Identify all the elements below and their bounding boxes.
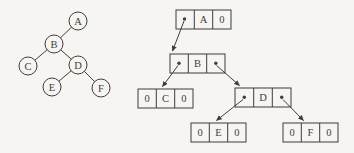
tree-node-c: C <box>19 57 37 75</box>
tree-node-d: D <box>69 56 87 74</box>
list-node-e-data: E <box>215 127 221 138</box>
arrow-a-lchild-to-b <box>173 21 185 51</box>
list-node-f-data: F <box>308 127 314 138</box>
pointer-dot <box>280 96 283 99</box>
linked-representation-diagram: A 0 B 0 C 0 D <box>138 10 338 142</box>
list-node-d-data: D <box>259 92 267 103</box>
figure-canvas: A B C D E F <box>0 0 354 153</box>
arrow-d-lchild-to-e <box>217 100 244 121</box>
pointer-dot <box>177 62 180 65</box>
list-node-a: A 0 <box>176 10 231 29</box>
binary-tree-diagram: A B C D E F <box>19 12 110 97</box>
tree-node-e-label: E <box>49 82 55 93</box>
tree-node-e: E <box>43 78 61 96</box>
tree-node-a-label: A <box>74 16 82 27</box>
pointer-dot <box>243 96 246 99</box>
tree-node-c-label: C <box>24 61 31 72</box>
list-node-e: 0 E 0 <box>191 123 246 142</box>
tree-node-f-label: F <box>98 83 104 94</box>
list-node-f: 0 F 0 <box>283 123 338 142</box>
pointer-dot <box>183 17 186 20</box>
tree-node-b-label: B <box>50 39 57 50</box>
arrow-b-rchild-to-d <box>217 66 240 86</box>
list-node-b-data: B <box>194 58 201 69</box>
figure-binary-tree-and-linked-representation: A B C D E F <box>0 0 354 153</box>
list-node-f-rchild: 0 <box>326 127 331 138</box>
pointer-dot <box>214 62 217 65</box>
list-node-c-lchild: 0 <box>145 93 150 104</box>
tree-node-f: F <box>92 79 110 97</box>
list-node-a-rchild: 0 <box>219 14 224 25</box>
tree-node-b: B <box>45 35 63 53</box>
list-node-e-rchild: 0 <box>234 127 239 138</box>
list-node-f-lchild: 0 <box>290 127 295 138</box>
list-node-a-data: A <box>200 14 208 25</box>
list-node-c-data: C <box>162 93 169 104</box>
list-node-b: B <box>170 54 225 73</box>
list-node-c-rchild: 0 <box>181 93 186 104</box>
list-node-c: 0 C 0 <box>138 89 193 108</box>
tree-node-a: A <box>69 12 87 30</box>
arrow-d-rchild-to-f <box>283 100 304 121</box>
list-node-d: D <box>235 88 291 107</box>
tree-node-d-label: D <box>74 60 82 71</box>
list-node-e-lchild: 0 <box>198 127 203 138</box>
